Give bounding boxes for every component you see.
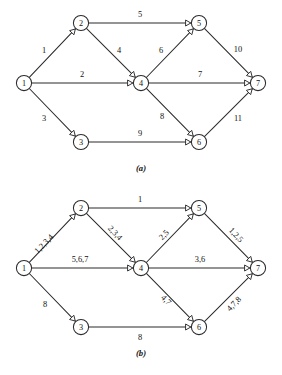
graph-node-label-4: 4 (139, 79, 143, 88)
graph-edge-e-6-7 (205, 274, 253, 322)
graph-node-label-6: 6 (197, 138, 201, 147)
graph-node-label-1: 1 (22, 264, 26, 273)
graph-edge-e-2-4 (87, 214, 136, 263)
graph-edge-e-4-5 (147, 29, 194, 77)
graph-node-label-7: 7 (256, 79, 260, 88)
edge-label-e-2-5: 1 (138, 195, 142, 204)
graph-edge-e-4-6 (147, 89, 194, 136)
edge-label-e-4-6: 8 (160, 112, 164, 121)
edge-label-e-4-7: 3,6 (195, 255, 205, 264)
edge-label-e-2-4: 2,3,4 (106, 224, 125, 243)
graph-node-label-5: 5 (197, 19, 201, 28)
graph-diagram-a: 1234567 1235467891011 (a) (0, 0, 282, 190)
graph-node-label-6: 6 (197, 323, 201, 332)
edge-label-e-1-3: 3 (42, 114, 46, 123)
edge-label-e-2-4: 4 (117, 46, 122, 55)
graph-edge-e-2-4 (87, 29, 136, 78)
panel-caption-b: (b) (136, 348, 146, 358)
edge-label-e-1-3: 8 (43, 300, 47, 309)
edge-label-e-3-6: 8 (138, 333, 142, 342)
edge-label-e-4-7: 7 (198, 70, 202, 79)
arrow-head-icon-e-4-7 (245, 80, 250, 86)
edge-label-e-6-7: 4,7,8 (225, 295, 243, 313)
graph-node-label-7: 7 (256, 264, 260, 273)
arrow-head-icon-e-2-5 (186, 20, 191, 26)
edge-label-e-5-7: 10 (234, 45, 242, 54)
edge-label-e-6-7: 11 (234, 114, 242, 123)
edge-label-e-1-4: 5,6,7 (72, 255, 89, 264)
graph-edge-e-5-7 (205, 29, 253, 77)
graph-node-label-4: 4 (139, 264, 143, 273)
arrow-head-icon-e-3-6 (186, 139, 191, 145)
edge-label-e-4-6: 4,7 (159, 293, 173, 307)
graph-edge-e-1-3 (30, 274, 76, 321)
graph-diagram-b: 1234567 1,2,3,45,6,7812,3,42,53,64,781,2… (0, 185, 282, 375)
graph-node-label-3: 3 (79, 323, 83, 332)
graph-edge-e-6-7 (205, 89, 253, 137)
graph-node-label-2: 2 (79, 19, 83, 28)
graph-node-label-2: 2 (79, 204, 83, 213)
graph-panel-b: 1234567 1,2,3,45,6,7812,3,42,53,64,781,2… (0, 185, 282, 375)
graph-edge-e-1-2 (30, 29, 76, 77)
arrow-head-icon-e-1-4 (128, 80, 133, 86)
edge-label-e-4-5: 6 (159, 46, 163, 55)
graph-edge-e-4-5 (147, 214, 194, 262)
arrow-head-icon-e-1-4 (128, 265, 133, 271)
figure-page: 1234567 1235467891011 (a) 1234567 1,2,3,… (0, 0, 282, 375)
edge-label-e-1-2: 1,2,3,4 (33, 232, 56, 255)
edge-label-e-5-7: 1,2,5 (227, 226, 245, 244)
graph-node-label-3: 3 (79, 138, 83, 147)
edge-label-e-1-2: 1 (42, 46, 46, 55)
graph-panel-a: 1234567 1235467891011 (a) (0, 0, 282, 190)
arrow-head-icon-e-4-7 (245, 265, 250, 271)
graph-node-label-1: 1 (22, 79, 26, 88)
edge-labels-layer-a: 1235467891011 (42, 10, 242, 138)
edge-label-e-1-4: 2 (80, 70, 84, 79)
edge-label-e-2-5: 5 (138, 10, 142, 19)
graph-edge-e-1-3 (30, 89, 76, 136)
graph-node-label-5: 5 (197, 204, 201, 213)
arrow-head-icon-e-3-6 (186, 324, 191, 330)
graph-edge-e-5-7 (205, 214, 253, 262)
arrow-head-icon-e-2-5 (186, 205, 191, 211)
panel-caption-a: (a) (136, 163, 146, 173)
edge-label-e-3-6: 9 (138, 129, 142, 138)
